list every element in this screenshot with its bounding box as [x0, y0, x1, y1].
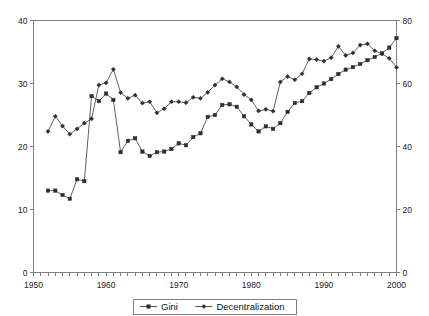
legend-marker-decentralization	[202, 304, 206, 308]
x-axis-tick-label: 1980	[242, 280, 261, 290]
line-chart: 0102030400204060801950196019701980199020…	[0, 0, 429, 316]
y-axis-left-tick-label: 10	[18, 205, 28, 215]
data-point-decentralization	[155, 111, 159, 115]
data-point-gini	[388, 46, 391, 49]
data-point-gini	[228, 103, 231, 106]
data-point-decentralization	[315, 57, 319, 61]
data-point-decentralization	[329, 56, 333, 60]
data-point-gini	[75, 178, 78, 181]
data-point-gini	[155, 150, 158, 153]
data-point-gini	[315, 86, 318, 89]
data-point-gini	[141, 150, 144, 153]
data-point-gini	[264, 125, 267, 128]
legend-entry-gini[interactable]: Gini	[140, 301, 178, 312]
y-axis-left-tick-label: 20	[18, 142, 28, 152]
data-point-gini	[46, 189, 49, 192]
data-point-gini	[250, 123, 253, 126]
y-axis-right-tick-label: 0	[403, 268, 408, 278]
data-point-decentralization	[97, 83, 101, 87]
data-point-gini	[126, 139, 129, 142]
data-point-gini	[184, 144, 187, 147]
chart-legend[interactable]: GiniDecentralization	[133, 299, 296, 314]
data-point-gini	[221, 103, 224, 106]
y-axis-left-tick-label: 0	[23, 268, 28, 278]
data-point-gini	[199, 132, 202, 135]
data-point-gini	[162, 150, 165, 153]
data-point-decentralization	[46, 129, 50, 133]
data-point-gini	[177, 142, 180, 145]
data-point-decentralization	[104, 81, 108, 85]
data-point-gini	[119, 150, 122, 153]
axes	[30, 21, 400, 277]
data-point-gini	[133, 137, 136, 140]
legend-marker-gini	[147, 305, 150, 308]
data-point-gini	[279, 121, 282, 124]
legend-entry-decentralization[interactable]: Decentralization	[195, 301, 284, 312]
data-point-decentralization	[177, 100, 181, 104]
data-point-gini	[351, 65, 354, 68]
chart-container: 0102030400204060801950196019701980199020…	[0, 0, 429, 316]
y-axis-left-tick-label: 30	[18, 79, 28, 89]
legend-label-decentralization: Decentralization	[216, 301, 284, 312]
data-point-gini	[54, 189, 57, 192]
data-point-gini	[97, 99, 100, 102]
data-point-gini	[337, 72, 340, 75]
data-point-gini	[61, 193, 64, 196]
data-point-gini	[329, 77, 332, 80]
data-point-decentralization	[111, 67, 115, 71]
data-point-gini	[206, 115, 209, 118]
data-point-gini	[286, 110, 289, 113]
data-point-decentralization	[307, 57, 311, 61]
x-axis-tick-label: 1970	[169, 280, 188, 290]
data-point-gini	[344, 68, 347, 71]
y-axis-right-tick-label: 60	[403, 79, 413, 89]
series-decentralization	[46, 42, 399, 137]
data-series	[46, 36, 399, 200]
x-axis-tick-label: 1990	[314, 280, 333, 290]
data-point-gini	[242, 115, 245, 118]
data-point-gini	[308, 91, 311, 94]
data-point-gini	[83, 179, 86, 182]
legend-label-gini: Gini	[161, 301, 178, 312]
data-point-gini	[112, 98, 115, 101]
data-point-gini	[373, 55, 376, 58]
data-point-decentralization	[322, 59, 326, 63]
data-point-gini	[293, 101, 296, 104]
data-point-decentralization	[256, 109, 260, 113]
y-axis-right-tick-label: 80	[403, 16, 413, 26]
data-point-gini	[300, 99, 303, 102]
series-line-gini	[48, 38, 396, 199]
series-line-decentralization	[48, 44, 396, 134]
x-axis-tick-label: 1960	[97, 280, 116, 290]
data-point-gini	[395, 36, 398, 39]
y-axis-right-tick-label: 20	[403, 205, 413, 215]
data-point-decentralization	[264, 107, 268, 111]
data-point-gini	[104, 92, 107, 95]
data-point-gini	[235, 105, 238, 108]
data-point-gini	[322, 82, 325, 85]
data-point-gini	[257, 130, 260, 133]
x-axis-tick-label: 2000	[387, 280, 406, 290]
data-point-gini	[68, 197, 71, 200]
data-point-gini	[366, 58, 369, 61]
data-point-decentralization	[271, 109, 275, 113]
series-gini	[46, 36, 398, 200]
data-point-gini	[213, 113, 216, 116]
x-axis-tick-label: 1950	[24, 280, 43, 290]
data-point-gini	[359, 62, 362, 65]
data-point-gini	[271, 127, 274, 130]
data-point-decentralization	[148, 100, 152, 104]
axis-tick-labels: 0102030400204060801950196019701980199020…	[18, 16, 412, 290]
data-point-gini	[90, 94, 93, 97]
y-axis-right-tick-label: 40	[403, 142, 413, 152]
data-point-gini	[170, 147, 173, 150]
y-axis-left-tick-label: 40	[18, 16, 28, 26]
data-point-gini	[148, 154, 151, 157]
data-point-gini	[192, 135, 195, 138]
